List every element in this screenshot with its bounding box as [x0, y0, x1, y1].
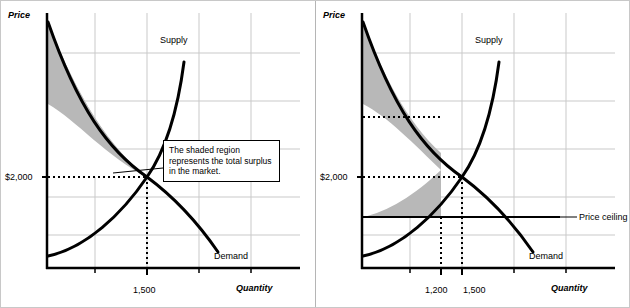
surplus-callout-left: The shaded region represents the total s…: [163, 140, 280, 182]
demand-label-left: Demand: [214, 251, 248, 261]
y-tick-label-2000-left: $2,000: [5, 172, 33, 182]
x-tick-label-1200-right: 1,200: [425, 285, 448, 295]
right-panel-graphics: [315, 0, 630, 308]
y-axis-title-left: Price: [8, 10, 30, 20]
chart-panel-right: Price Quantity Supply Demand $2,000 1,20…: [315, 0, 630, 308]
x-axis-title-right: Quantity: [551, 283, 588, 293]
price-ceiling-label-right: Price ceiling: [579, 212, 628, 222]
x-tick-label-1500-left: 1,500: [133, 285, 156, 295]
x-axis-title-left: Quantity: [236, 283, 273, 293]
demand-label-right: Demand: [529, 251, 563, 261]
x-tick-label-1500-right: 1,500: [463, 285, 486, 295]
y-axis-title-right: Price: [323, 10, 345, 20]
supply-label-left: Supply: [160, 35, 188, 45]
supply-label-right: Supply: [475, 35, 503, 45]
figure-root: Price Quantity Supply Demand $2,000 1,50…: [0, 0, 630, 308]
y-tick-label-2000-right: $2,000: [320, 172, 348, 182]
chart-panel-left: Price Quantity Supply Demand $2,000 1,50…: [0, 0, 315, 308]
